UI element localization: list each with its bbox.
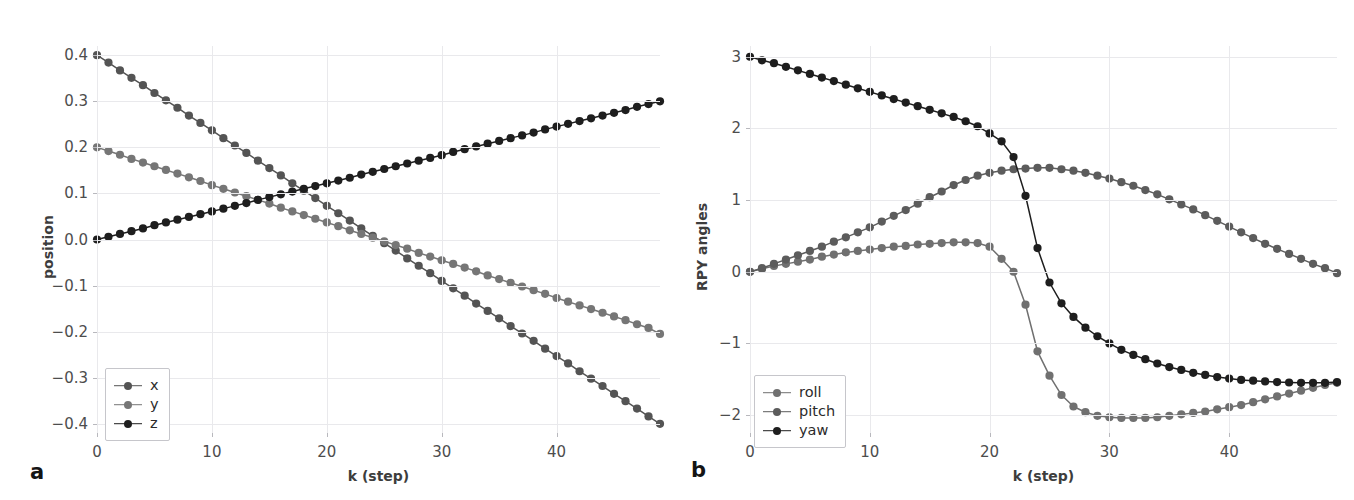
data-point-pitch — [1177, 200, 1185, 208]
data-point-y — [610, 312, 618, 320]
data-point-x — [231, 141, 239, 149]
data-point-z — [610, 109, 618, 117]
panel-letter-b: b — [691, 458, 706, 482]
data-point-roll — [890, 243, 898, 251]
grid-line-horizontal — [750, 200, 1337, 201]
grid-line-horizontal — [97, 101, 660, 102]
data-point-y — [277, 204, 285, 212]
data-point-x — [288, 179, 296, 187]
data-point-x — [426, 269, 434, 277]
legend-item-z[interactable]: z — [114, 414, 159, 433]
data-point-pitch — [830, 238, 838, 246]
data-point-roll — [950, 238, 958, 246]
data-point-roll — [1057, 391, 1065, 399]
y-tick-label: −1 — [719, 334, 750, 352]
data-point-z — [311, 182, 319, 190]
data-point-roll — [1249, 398, 1257, 406]
data-point-x — [530, 337, 538, 345]
y-tick-label: 0.1 — [64, 184, 97, 202]
grid-line-horizontal — [97, 55, 660, 56]
data-point-yaw — [1093, 332, 1101, 340]
data-point-pitch — [1033, 164, 1041, 172]
data-point-z — [449, 148, 457, 156]
y-tick-label: −2 — [719, 406, 750, 424]
data-point-pitch — [938, 187, 946, 195]
data-point-roll — [878, 244, 886, 252]
data-point-pitch — [1129, 182, 1137, 190]
legend-item-x[interactable]: x — [114, 376, 159, 395]
series-yaw — [746, 53, 1341, 387]
data-point-yaw — [914, 102, 922, 110]
legend-marker-icon-roll — [763, 387, 791, 399]
grid-line-horizontal — [97, 424, 660, 425]
data-point-x — [334, 209, 342, 217]
panel-b: 3210−1−2010203040 RPY angles k (step) b … — [677, 0, 1354, 500]
data-point-pitch — [1261, 240, 1269, 248]
data-point-y — [116, 151, 124, 159]
data-point-yaw — [1165, 363, 1173, 371]
data-point-roll — [1285, 389, 1293, 397]
grid-line-vertical — [212, 46, 213, 433]
data-point-y — [196, 177, 204, 185]
legend-label-yaw: yaw — [799, 423, 828, 438]
data-point-yaw — [1333, 378, 1341, 386]
legend-item-y[interactable]: y — [114, 395, 159, 414]
x-tick-label: 40 — [1220, 443, 1239, 461]
legend-label-roll: roll — [799, 385, 822, 400]
series-line-yaw — [750, 57, 1337, 383]
data-point-x — [484, 307, 492, 315]
data-point-x — [104, 58, 112, 66]
legend-item-yaw[interactable]: yaw — [763, 421, 835, 440]
data-point-z — [587, 114, 595, 122]
grid-line-horizontal — [97, 147, 660, 148]
y-axis-label-a: position — [40, 187, 56, 307]
data-point-pitch — [1093, 172, 1101, 180]
data-point-z — [598, 111, 606, 119]
legend-marker-icon-x — [114, 380, 142, 392]
y-tick-label: −0.2 — [52, 323, 97, 341]
data-point-pitch — [1213, 217, 1221, 225]
data-point-y — [633, 320, 641, 328]
data-point-yaw — [1273, 378, 1281, 386]
y-tick-label: 2 — [731, 119, 750, 137]
data-point-x — [610, 390, 618, 398]
data-point-pitch — [842, 233, 850, 241]
x-tick-mark — [97, 433, 98, 437]
data-point-roll — [1033, 347, 1041, 355]
data-point-y — [403, 245, 411, 253]
data-point-x — [116, 66, 124, 74]
legend-label-z: z — [150, 416, 158, 431]
data-point-z — [334, 176, 342, 184]
figure-container: 0.40.30.20.10.0−0.1−0.2−0.3−0.4010203040… — [0, 0, 1354, 500]
data-point-yaw — [1009, 153, 1017, 161]
legend-item-pitch[interactable]: pitch — [763, 402, 835, 421]
series-pitch — [746, 164, 1341, 278]
data-point-yaw — [1261, 377, 1269, 385]
data-point-z — [127, 227, 135, 235]
data-point-x — [644, 412, 652, 420]
data-point-y — [162, 166, 170, 174]
data-point-z — [185, 213, 193, 221]
data-point-x — [242, 149, 250, 157]
data-point-pitch — [1273, 245, 1281, 253]
series-line-z — [97, 101, 660, 239]
grid-line-vertical — [750, 46, 751, 433]
data-point-z — [403, 159, 411, 167]
x-tick-mark — [750, 433, 751, 437]
legend-a[interactable]: xyz — [105, 368, 170, 441]
y-tick-label: −0.1 — [52, 277, 97, 295]
legend-item-roll[interactable]: roll — [763, 383, 835, 402]
legend-b[interactable]: rollpitchyaw — [754, 375, 846, 448]
data-point-yaw — [1309, 379, 1317, 387]
x-tick-mark — [990, 433, 991, 437]
x-tick-label: 0 — [92, 443, 102, 461]
x-tick-label: 30 — [432, 443, 451, 461]
data-point-roll — [974, 239, 982, 247]
data-point-y — [139, 158, 147, 166]
x-tick-mark — [557, 433, 558, 437]
data-point-z — [426, 154, 434, 162]
y-tick-label: 0.0 — [64, 231, 97, 249]
data-point-z — [369, 168, 377, 176]
data-point-z — [231, 202, 239, 210]
x-tick-mark — [442, 433, 443, 437]
